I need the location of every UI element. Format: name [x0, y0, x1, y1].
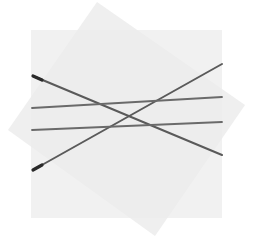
figure-canvas: [0, 0, 255, 247]
geometric-figure-svg: [0, 0, 255, 247]
